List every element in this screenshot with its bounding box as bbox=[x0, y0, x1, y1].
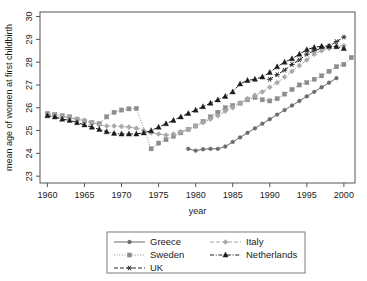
data-point bbox=[297, 63, 302, 68]
data-point bbox=[312, 90, 316, 94]
legend-label: Italy bbox=[246, 236, 264, 247]
data-point bbox=[156, 124, 161, 129]
x-tick-label: 1990 bbox=[260, 190, 280, 200]
data-point bbox=[163, 121, 168, 126]
data-point bbox=[298, 99, 302, 103]
data-point bbox=[105, 115, 109, 119]
x-tick-label: 1980 bbox=[186, 190, 206, 200]
x-tick-label: 2000 bbox=[334, 190, 354, 200]
data-point bbox=[335, 76, 339, 80]
data-point bbox=[268, 117, 272, 121]
legend-marker bbox=[128, 240, 132, 244]
series-line-sweden bbox=[47, 58, 351, 149]
x-tick-label: 1995 bbox=[297, 190, 317, 200]
series-greece bbox=[186, 76, 338, 152]
legend-label: Netherlands bbox=[246, 249, 297, 260]
data-point bbox=[223, 93, 228, 98]
data-point bbox=[104, 123, 109, 128]
data-point bbox=[201, 147, 205, 151]
line-chart: 1960196519701975198019851990199520002324… bbox=[0, 0, 367, 281]
y-tick-label: 27 bbox=[24, 80, 34, 90]
data-point bbox=[289, 56, 294, 61]
y-tick-label: 23 bbox=[24, 171, 34, 181]
data-point bbox=[252, 76, 257, 81]
data-point bbox=[305, 94, 309, 98]
data-point bbox=[156, 141, 160, 145]
data-point bbox=[327, 81, 331, 85]
data-point bbox=[163, 133, 168, 138]
data-point bbox=[171, 117, 176, 122]
data-point bbox=[297, 83, 301, 87]
data-point bbox=[297, 51, 302, 56]
data-point bbox=[268, 99, 272, 103]
legend-marker bbox=[127, 253, 131, 257]
chart-figure: 1960196519701975198019851990199520002324… bbox=[0, 0, 367, 281]
legend-label: Sweden bbox=[150, 249, 184, 260]
x-tick-label: 1970 bbox=[112, 190, 132, 200]
data-point bbox=[245, 78, 250, 83]
data-point bbox=[334, 65, 338, 69]
data-point bbox=[260, 122, 264, 126]
data-point bbox=[119, 124, 124, 129]
x-tick-label: 1985 bbox=[223, 190, 243, 200]
data-point bbox=[209, 147, 213, 151]
data-point bbox=[260, 98, 264, 102]
legend-item-netherlands[interactable]: Netherlands bbox=[210, 249, 297, 260]
legend-item-sweden[interactable]: Sweden bbox=[114, 249, 184, 260]
data-point bbox=[149, 128, 154, 133]
data-point bbox=[282, 74, 287, 79]
data-point bbox=[275, 64, 280, 69]
legend-label: Greece bbox=[150, 236, 181, 247]
series-italy bbox=[45, 43, 347, 138]
data-point bbox=[327, 69, 331, 73]
data-point bbox=[349, 56, 353, 60]
data-point bbox=[238, 81, 243, 86]
x-tick-label: 1965 bbox=[74, 190, 94, 200]
data-point bbox=[275, 97, 279, 101]
data-point bbox=[342, 62, 346, 66]
legend-item-uk[interactable]: UK bbox=[114, 262, 164, 273]
data-point bbox=[134, 126, 139, 131]
data-point bbox=[112, 123, 117, 128]
data-point bbox=[267, 70, 272, 75]
data-point bbox=[186, 147, 190, 151]
data-point bbox=[267, 85, 272, 90]
data-point bbox=[164, 138, 168, 142]
data-point bbox=[282, 59, 287, 64]
x-axis-title: year bbox=[189, 206, 207, 216]
data-point bbox=[282, 92, 286, 96]
legend-label: UK bbox=[150, 262, 164, 273]
data-point bbox=[312, 77, 316, 81]
data-point bbox=[290, 87, 294, 91]
x-tick-label: 1975 bbox=[149, 190, 169, 200]
data-point bbox=[246, 131, 250, 135]
data-point bbox=[260, 74, 265, 79]
data-point bbox=[283, 108, 287, 112]
y-tick-label: 28 bbox=[24, 57, 34, 67]
data-point bbox=[260, 89, 265, 94]
x-tick-label: 1960 bbox=[37, 190, 57, 200]
legend-item-greece[interactable]: Greece bbox=[114, 236, 181, 247]
data-point bbox=[112, 110, 116, 114]
data-point bbox=[275, 113, 279, 117]
data-point bbox=[149, 147, 153, 151]
data-point bbox=[156, 131, 161, 136]
data-point bbox=[253, 126, 257, 130]
legend-marker bbox=[223, 239, 228, 244]
data-point bbox=[341, 35, 346, 40]
y-tick-label: 29 bbox=[24, 34, 34, 44]
data-point bbox=[231, 140, 235, 144]
data-point bbox=[312, 44, 317, 49]
data-point bbox=[134, 106, 138, 110]
data-point bbox=[223, 145, 227, 149]
data-point bbox=[119, 108, 123, 112]
y-tick-label: 24 bbox=[24, 148, 34, 158]
data-point bbox=[238, 136, 242, 140]
series-sweden bbox=[45, 56, 353, 151]
data-point bbox=[290, 104, 294, 108]
data-point bbox=[215, 97, 220, 102]
data-point bbox=[126, 125, 131, 130]
data-point bbox=[194, 149, 198, 153]
legend-item-italy[interactable]: Italy bbox=[210, 236, 264, 247]
data-point bbox=[216, 147, 220, 151]
